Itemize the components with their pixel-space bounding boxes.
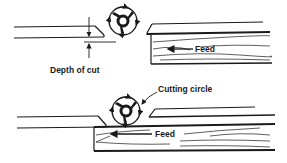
feed-label-bottom: Feed bbox=[155, 129, 175, 139]
feed-label-top: Feed bbox=[195, 44, 215, 54]
cutterhead-icon bbox=[109, 7, 137, 35]
infeed-table bbox=[17, 116, 106, 128]
workpiece-bottom bbox=[94, 124, 275, 151]
top-panel: Depth of cut bbox=[14, 7, 272, 75]
jointer-diagram: Depth of cut bbox=[0, 0, 287, 163]
infeed-table bbox=[14, 26, 104, 38]
cutterhead-icon bbox=[112, 97, 140, 125]
bottom-panel: Cutting circle Feed bbox=[17, 84, 275, 151]
outfeed-workpiece bbox=[147, 22, 272, 64]
cutting-circle-leader bbox=[142, 92, 157, 104]
cutting-circle-label: Cutting circle bbox=[158, 84, 213, 94]
depth-of-cut-label: Depth of cut bbox=[50, 65, 100, 75]
outfeed-table bbox=[149, 107, 275, 117]
